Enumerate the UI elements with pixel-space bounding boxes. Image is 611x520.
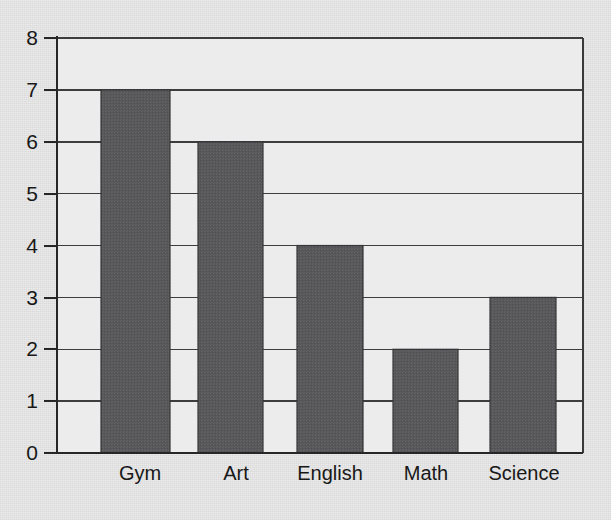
y-tick-label-3: 3 (26, 286, 38, 309)
bar-gym[interactable] (101, 90, 170, 453)
x-tick-label-gym: Gym (119, 462, 161, 484)
bar-english[interactable] (297, 246, 363, 454)
bar-art[interactable] (198, 142, 263, 453)
y-tick-label-0: 0 (26, 441, 38, 464)
bar-math[interactable] (393, 349, 458, 453)
scanned-page-background: 8 7 6 5 4 3 2 1 0 Gym Art English Math S… (0, 0, 611, 520)
y-tick-label-7: 7 (26, 78, 38, 101)
x-tick-label-science: Science (488, 462, 559, 484)
x-tick-label-english: English (297, 462, 363, 484)
chart-canvas: 8 7 6 5 4 3 2 1 0 Gym Art English Math S… (0, 0, 611, 520)
x-axis-tick-labels: Gym Art English Math Science (119, 462, 560, 484)
y-tick-label-8: 8 (26, 26, 38, 49)
y-tick-label-6: 6 (26, 130, 38, 153)
y-axis-tick-labels: 8 7 6 5 4 3 2 1 0 (26, 26, 38, 464)
y-tick-label-5: 5 (26, 182, 38, 205)
y-tick-label-1: 1 (26, 389, 38, 412)
y-tick-label-4: 4 (26, 234, 38, 257)
bar-science[interactable] (490, 297, 556, 453)
bar-chart: 8 7 6 5 4 3 2 1 0 Gym Art English Math S… (0, 0, 611, 520)
x-tick-label-art: Art (223, 462, 249, 484)
y-tick-label-2: 2 (26, 337, 38, 360)
x-tick-label-math: Math (404, 462, 448, 484)
y-axis-tick-marks (44, 38, 57, 453)
